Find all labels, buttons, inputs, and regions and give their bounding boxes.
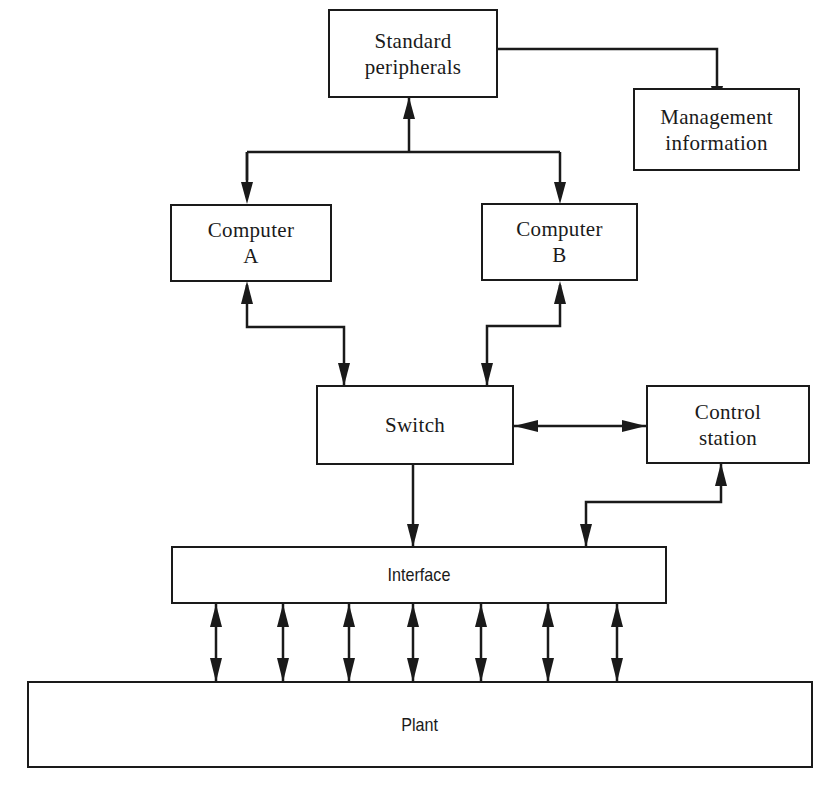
arrow-up-icon xyxy=(241,281,253,304)
node-label: station xyxy=(699,425,757,451)
arrow-up-icon xyxy=(715,463,727,486)
node-management-information: Management information xyxy=(633,88,800,171)
node-computer-a: Computer A xyxy=(170,204,332,282)
edge-peripherals-to-management xyxy=(497,49,717,88)
arrow-down-icon xyxy=(407,524,419,547)
node-standard-peripherals: Standard peripherals xyxy=(328,9,498,98)
node-computer-b: Computer B xyxy=(481,203,638,281)
node-label: Plant xyxy=(402,712,439,738)
node-label: Standard xyxy=(374,28,451,54)
arrow-down-icon xyxy=(554,182,566,204)
arrow-down-icon xyxy=(580,524,592,547)
edge-computer-a-to-switch xyxy=(247,285,344,385)
arrow-down-icon xyxy=(481,363,493,386)
node-label: Management xyxy=(660,104,773,130)
node-label: Interface xyxy=(388,562,451,588)
node-label: B xyxy=(552,242,566,268)
edge-control-station-to-interface xyxy=(586,463,721,546)
node-label: peripherals xyxy=(365,54,462,80)
node-label: A xyxy=(243,243,258,269)
arrow-left-icon xyxy=(514,420,538,432)
arrow-down-icon xyxy=(338,363,350,386)
node-control-station: Control station xyxy=(646,385,810,464)
node-label: Computer xyxy=(208,217,294,243)
node-interface: Interface xyxy=(171,546,667,604)
node-label: Switch xyxy=(385,412,445,438)
node-label: Control xyxy=(695,399,761,425)
arrow-right-icon xyxy=(622,420,646,432)
arrow-up-icon xyxy=(554,281,566,304)
node-label: information xyxy=(665,130,767,156)
node-plant: Plant xyxy=(27,681,813,768)
interface-plant-arrows xyxy=(210,604,623,682)
arrow-down-icon xyxy=(241,182,253,204)
node-label: Computer xyxy=(516,216,602,242)
node-switch: Switch xyxy=(316,385,514,465)
arrow-up-icon xyxy=(403,97,415,119)
edge-computer-b-to-switch xyxy=(487,285,560,385)
